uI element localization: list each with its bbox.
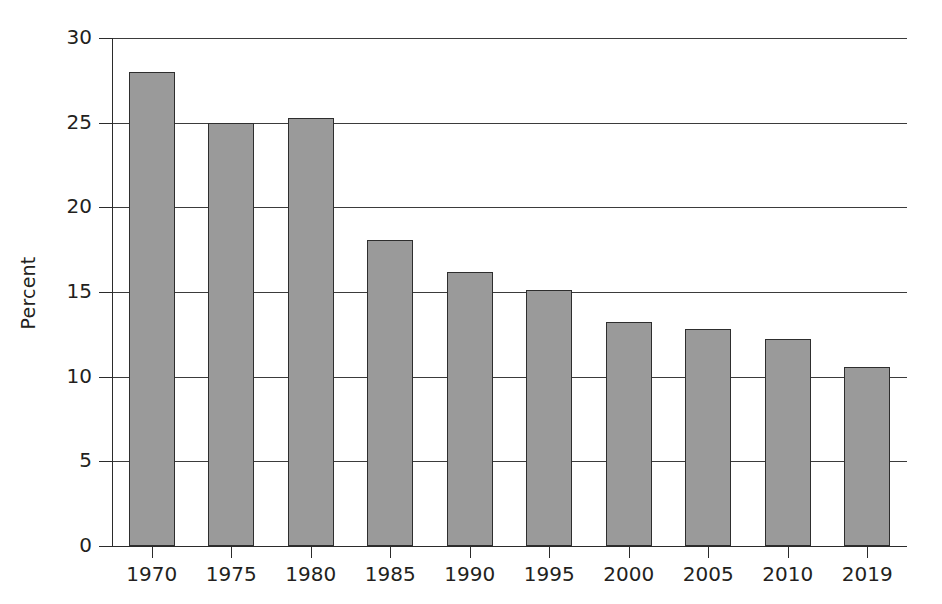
y-axis-tick-label: 20 xyxy=(44,196,92,216)
x-axis-tick-label: 2005 xyxy=(663,562,753,586)
x-axis-tick-label: 2000 xyxy=(584,562,674,586)
x-axis-tick-label: 1975 xyxy=(186,562,276,586)
x-axis-tick xyxy=(470,546,471,558)
x-axis-tick xyxy=(629,546,630,558)
x-axis-tick xyxy=(231,546,232,558)
y-axis-tick-label: 25 xyxy=(44,112,92,132)
x-axis-tick-label: 1970 xyxy=(107,562,197,586)
gridline xyxy=(112,38,907,39)
plot-area: 051015202530 197019751980198519901995200… xyxy=(0,0,942,604)
bar xyxy=(526,290,572,546)
y-axis-tick xyxy=(99,38,113,39)
x-axis-tick xyxy=(311,546,312,558)
y-axis-tick xyxy=(99,546,113,547)
y-axis-tick-label: 0 xyxy=(44,535,92,555)
x-axis-tick xyxy=(390,546,391,558)
x-axis-tick-label: 2010 xyxy=(743,562,833,586)
y-axis-tick-label: 15 xyxy=(44,281,92,301)
x-axis-tick-label: 1990 xyxy=(425,562,515,586)
y-axis-tick xyxy=(99,377,113,378)
y-axis-tick xyxy=(99,123,113,124)
bar xyxy=(765,339,811,546)
bar xyxy=(447,272,493,546)
bar xyxy=(288,118,334,546)
y-axis-tick-label: 5 xyxy=(44,450,92,470)
bar xyxy=(844,367,890,546)
bar-chart: Percent 051015202530 1970197519801985199… xyxy=(0,0,942,604)
x-axis-tick-label: 1985 xyxy=(345,562,435,586)
bar xyxy=(606,322,652,546)
y-axis-tick xyxy=(99,292,113,293)
x-axis-tick-label: 1995 xyxy=(504,562,594,586)
bar xyxy=(129,72,175,546)
x-axis-tick-label: 1980 xyxy=(266,562,356,586)
x-axis-tick xyxy=(549,546,550,558)
x-axis-tick xyxy=(867,546,868,558)
x-axis-tick xyxy=(708,546,709,558)
x-axis-tick xyxy=(788,546,789,558)
x-axis-tick xyxy=(152,546,153,558)
bar xyxy=(208,123,254,546)
y-axis-tick xyxy=(99,207,113,208)
bar xyxy=(685,329,731,546)
bar xyxy=(367,240,413,546)
y-axis-tick-label: 30 xyxy=(44,27,92,47)
x-axis-tick-label: 2019 xyxy=(822,562,912,586)
y-axis-tick xyxy=(99,461,113,462)
y-axis-tick-label: 10 xyxy=(44,366,92,386)
